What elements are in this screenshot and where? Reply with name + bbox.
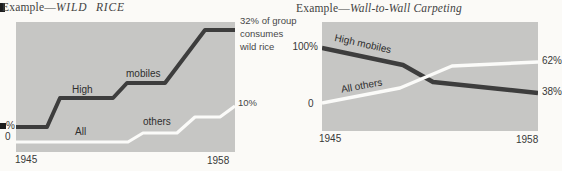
high-line-label: High [72,84,93,95]
right-y-axis-100pct-label: 100% [290,41,318,52]
left-y-axis-percent-label: % [6,120,15,131]
all-others-62pct-label: 62% [542,55,562,66]
left-x-axis-1958-label: 1958 [207,155,229,166]
right-x-axis-1958-label: 1958 [516,134,538,145]
mobiles-line-label: mobiles [126,68,160,79]
left-chart-title: Example—WILD RICE [2,1,125,13]
left-chart-title-name: WILD RICE [56,1,125,13]
wild-rice-10pct-annotation: 10% [238,96,257,109]
all-line-label: All [75,126,86,137]
left-chart-title-prefix: Example— [2,1,56,13]
right-chart-title: Example—Wall-to-Wall Carpeting [296,2,462,14]
left-x-axis-1945-label: 1945 [15,154,37,165]
right-chart-title-name: Wall-to-Wall Carpeting [350,2,462,14]
others-line-label: others [143,116,171,127]
left-plot-area [16,22,235,152]
high-mobiles-38pct-label: 38% [542,86,562,97]
right-y-axis-zero-label: 0 [308,98,314,109]
right-chart-title-prefix: Example— [296,2,350,14]
right-x-axis-1945-label: 1945 [319,133,341,144]
left-y-axis-zero-label: 0 [5,131,11,142]
